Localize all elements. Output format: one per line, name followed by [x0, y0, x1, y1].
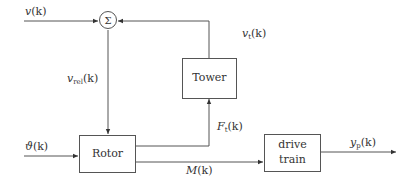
signal-m-label: M(k)	[186, 165, 213, 176]
vt-feedback-arrow	[118, 21, 209, 58]
ft-arrow	[136, 99, 209, 146]
signal-vt-label: vt(k)	[242, 28, 266, 41]
tower-label: Tower	[192, 71, 226, 86]
sum-symbol: Σ	[104, 15, 111, 26]
signal-v-label: v(k)	[25, 6, 46, 17]
signal-ft-label: Ft(k)	[217, 121, 243, 134]
signal-theta-label: ϑ(k)	[25, 141, 48, 152]
drive-train-block: drive train	[264, 134, 321, 172]
tower-block: Tower	[182, 58, 237, 99]
rotor-block: Rotor	[79, 135, 136, 173]
sum-junction: Σ	[99, 11, 117, 29]
signal-vrel-label: vrel(k)	[67, 73, 98, 86]
signal-yp-label: yp(k)	[350, 137, 376, 150]
drive-train-line1: drive	[278, 138, 307, 153]
drive-train-line2: train	[278, 153, 307, 168]
rotor-label: Rotor	[92, 147, 123, 162]
